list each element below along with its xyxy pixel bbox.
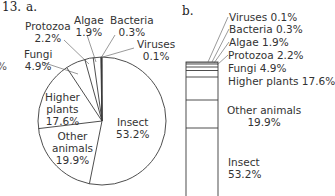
- bar-label-protozoa: Protozoa 2.2%: [228, 49, 304, 61]
- bar-label-algae: Algae 1.9%: [229, 36, 289, 48]
- pie-label-protozoa: Protozoa 2.2%: [25, 20, 71, 44]
- bar-leader-viruses: [208, 17, 228, 62]
- stacked-bar-chart: [186, 62, 218, 196]
- pie-label-insect: Insect 53.2%: [116, 116, 149, 140]
- bar-label-insect: Insect 53.2%: [228, 156, 261, 180]
- bar-label-other-animals: Other animals 19.9%: [227, 104, 301, 128]
- bar-label-higher-plants: Higher plants 17.6%: [228, 75, 335, 87]
- bar-label-bacteria: Bacteria 0.3%: [229, 23, 303, 35]
- pie-label-higher-plants: Higher plants 17.6%: [45, 91, 80, 127]
- leader-bacteria: [101, 35, 115, 58]
- pie-label-bacteria: Bacteria 0.3%: [110, 14, 154, 38]
- bar-leader-algae: [214, 42, 229, 63]
- pie-label-algae: Algae 1.9%: [74, 14, 104, 38]
- bar-leader-lines: [208, 17, 229, 65]
- bar-label-viruses: Viruses 0.1%: [229, 11, 297, 23]
- bar-outline: [186, 62, 218, 196]
- leader-viruses: [103, 48, 134, 57]
- pie-label-other-animals: Other animals 19.9%: [52, 130, 93, 166]
- bar-label-fungi: Fungi 4.9%: [228, 62, 286, 74]
- pie-label-viruses: Viruses 0.1%: [137, 38, 175, 62]
- pie-label-fungi: Fungi 4.9%: [24, 48, 52, 72]
